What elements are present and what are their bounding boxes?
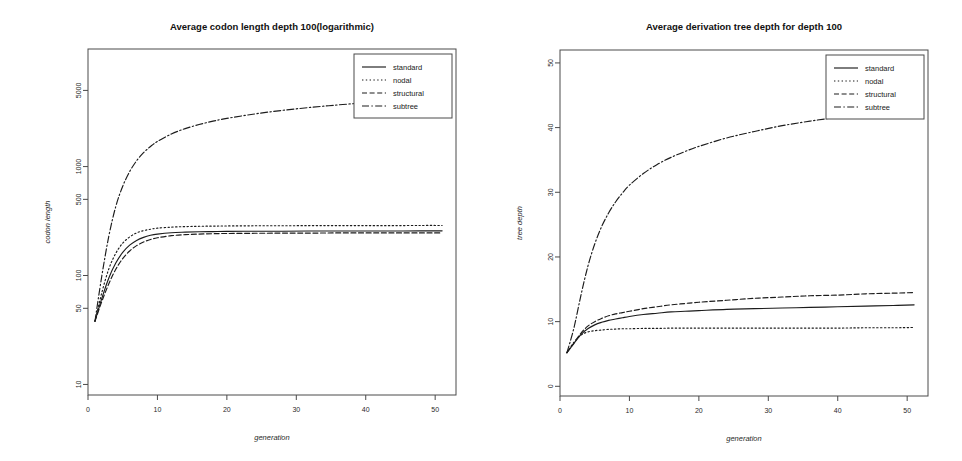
- series-line-standard: [95, 231, 442, 321]
- chart-codon-length: Average codon length depth 100(logarithm…: [0, 0, 481, 461]
- y-tick-label: 10: [547, 318, 554, 326]
- series-line-structural: [95, 233, 442, 321]
- series-line-structural: [567, 293, 914, 353]
- series-line-nodal: [95, 225, 442, 321]
- chart-tree-depth: Average derivation tree depth for depth …: [481, 0, 962, 461]
- legend-label-standard: standard: [865, 64, 894, 73]
- legend-label-nodal: nodal: [393, 76, 412, 85]
- y-tick-label: 500: [75, 193, 82, 205]
- panel-codon-length: Average codon length depth 100(logarithm…: [0, 0, 481, 461]
- x-tick-label: 0: [86, 406, 90, 413]
- legend-label-subtree: subtree: [393, 102, 418, 111]
- x-tick-label: 40: [834, 407, 842, 414]
- y-tick-label: 5000: [75, 83, 82, 99]
- panel-tree-depth: Average derivation tree depth for depth …: [481, 0, 962, 461]
- y-tick-label: 10: [75, 380, 82, 388]
- x-tick-label: 50: [431, 406, 439, 413]
- x-axis-label: generation: [726, 434, 761, 443]
- series-line-nodal: [567, 327, 914, 352]
- legend-label-structural: structural: [393, 89, 424, 98]
- legend-label-standard: standard: [393, 63, 422, 72]
- x-tick-label: 30: [292, 406, 300, 413]
- y-tick-label: 50: [75, 304, 82, 312]
- y-tick-label: 50: [547, 59, 554, 67]
- y-axis-label: codon length: [43, 201, 52, 244]
- x-tick-label: 20: [223, 406, 231, 413]
- legend-label-structural: structural: [865, 90, 896, 99]
- legend-label-nodal: nodal: [865, 77, 884, 86]
- figure-root: Average codon length depth 100(logarithm…: [0, 0, 962, 461]
- y-tick-label: 0: [547, 384, 554, 388]
- x-axis-label: generation: [254, 433, 289, 442]
- series-line-subtree: [95, 98, 442, 322]
- chart-title: Average codon length depth 100(logarithm…: [170, 21, 374, 32]
- x-tick-label: 40: [362, 406, 370, 413]
- y-tick-label: 100: [75, 270, 82, 282]
- y-tick-label: 20: [547, 253, 554, 261]
- y-axis-label: tree depth: [515, 206, 524, 240]
- y-tick-label: 1000: [75, 159, 82, 175]
- y-tick-label: 40: [547, 124, 554, 132]
- series-line-subtree: [567, 110, 914, 353]
- x-tick-label: 30: [764, 407, 772, 414]
- legend-label-subtree: subtree: [865, 103, 890, 112]
- x-tick-label: 0: [558, 407, 562, 414]
- x-tick-label: 20: [695, 407, 703, 414]
- x-tick-label: 50: [903, 407, 911, 414]
- y-tick-label: 30: [547, 188, 554, 196]
- x-tick-label: 10: [154, 406, 162, 413]
- x-tick-label: 10: [626, 407, 634, 414]
- chart-title: Average derivation tree depth for depth …: [646, 21, 842, 32]
